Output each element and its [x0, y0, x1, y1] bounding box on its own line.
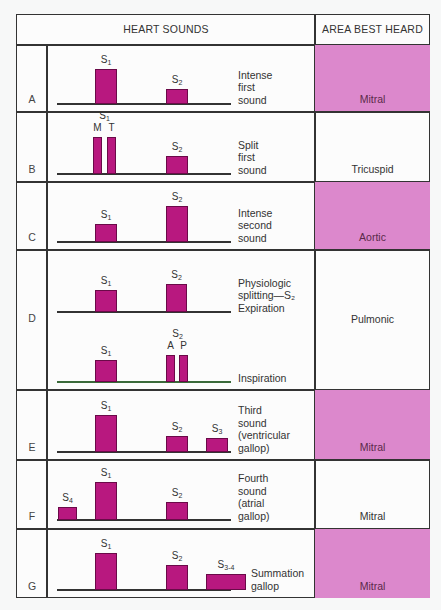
area-label: Mitral	[315, 510, 430, 522]
sound-label: S1	[101, 209, 112, 221]
sound-label: S1	[101, 345, 112, 357]
sound-label: M	[93, 122, 101, 133]
sound-description: Intense first sound	[238, 69, 272, 107]
row-label-g: G	[17, 580, 47, 592]
label-column-divider	[46, 389, 48, 459]
sound-bar	[206, 574, 246, 590]
sound-bar	[95, 69, 117, 104]
sound-description: Summation gallop	[251, 567, 304, 592]
row-label-e: E	[17, 441, 47, 453]
sound-bar	[95, 290, 117, 312]
row-label-d: D	[17, 312, 47, 324]
sound-label: S1	[101, 54, 112, 66]
sound-description: Intense second sound	[238, 207, 272, 245]
area-label: Aortic	[315, 231, 430, 243]
sound-description: Split first sound	[238, 139, 267, 177]
sound-bar	[95, 482, 117, 520]
baseline	[57, 103, 231, 105]
sound-label: S2	[172, 74, 183, 86]
sound-label: P	[180, 340, 187, 351]
sound-bar	[166, 89, 188, 104]
area-label: Mitral	[315, 441, 430, 453]
label-column-divider	[46, 111, 48, 181]
sound-label: S3	[212, 423, 223, 435]
sound-description: Third sound (ventricular gallop)	[238, 404, 290, 454]
label-column-divider	[46, 44, 48, 111]
sound-description: Inspiration	[238, 372, 286, 385]
sound-bar	[166, 502, 188, 520]
area-label: Mitral	[315, 93, 430, 105]
header-area-best-heard: AREA BEST HEARD	[315, 14, 430, 44]
label-column-divider	[46, 459, 48, 528]
sound-bar	[95, 360, 117, 382]
sound-label: S1	[101, 400, 112, 412]
sound-bar	[95, 553, 117, 590]
area-cell-f: Mitral	[315, 460, 430, 528]
header-heart-sounds: HEART SOUNDS	[17, 14, 315, 44]
sound-bar	[166, 284, 187, 312]
area-cell-e: Mitral	[315, 390, 430, 459]
sound-label: S2	[172, 550, 183, 562]
baseline	[57, 589, 231, 591]
row-label-c: C	[17, 231, 47, 243]
sound-label: S1	[101, 538, 112, 550]
label-column-divider	[46, 249, 48, 389]
sound-bar	[166, 436, 188, 452]
baseline	[57, 381, 231, 383]
sound-bar	[95, 224, 117, 242]
sound-label: S1	[101, 467, 112, 479]
sound-bar	[166, 156, 188, 174]
sound-bar	[107, 137, 116, 174]
sound-label: S2	[171, 269, 182, 281]
sound-bar	[166, 565, 188, 590]
area-label: Tricuspid	[315, 163, 430, 175]
sound-description: Fourth sound (atrial gallop)	[238, 472, 270, 522]
sound-bar	[93, 137, 102, 174]
sound-description: Physiologic splitting—S₂ Expiration	[238, 277, 295, 315]
sound-bar	[179, 355, 188, 382]
sound-label: S1	[101, 275, 112, 287]
sound-label: S2	[172, 421, 183, 433]
sound-label: S2	[172, 141, 183, 153]
area-cell-d: Pulmonic	[315, 250, 430, 389]
baseline	[57, 451, 231, 453]
row-label-a: A	[17, 93, 47, 105]
area-cell-g: Mitral	[315, 529, 430, 598]
sound-bar	[58, 507, 77, 520]
sound-group-label: S2	[172, 328, 183, 340]
label-column-divider	[46, 181, 48, 249]
label-column-divider	[46, 528, 48, 598]
area-cell-b: Tricuspid	[315, 112, 430, 181]
area-cell-a: Mitral	[315, 45, 430, 111]
sound-bar	[166, 206, 188, 242]
row-label-f: F	[17, 510, 47, 522]
baseline	[57, 519, 231, 521]
sound-bar	[206, 438, 228, 452]
sound-label: A	[167, 340, 174, 351]
row-label-b: B	[17, 163, 47, 175]
sound-label: S2	[172, 191, 183, 203]
baseline	[57, 311, 231, 313]
sound-group-label: S1	[99, 110, 110, 122]
sound-label: T	[108, 122, 114, 133]
area-label: Mitral	[315, 580, 430, 592]
area-cell-c: Aortic	[315, 182, 430, 249]
baseline	[57, 173, 231, 175]
sound-bar	[166, 355, 175, 382]
sound-label: S4	[62, 492, 73, 504]
sound-label: S2	[172, 487, 183, 499]
sound-bar	[95, 415, 117, 452]
sound-label: S3-4	[218, 559, 235, 571]
area-label: Pulmonic	[315, 313, 430, 325]
baseline	[57, 241, 231, 243]
